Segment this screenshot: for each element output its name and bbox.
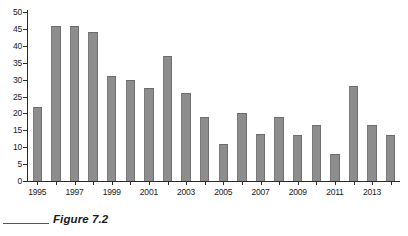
bar xyxy=(51,26,60,181)
bar xyxy=(70,26,79,181)
x-axis-tick-label: 2013 xyxy=(363,187,381,197)
bar xyxy=(256,134,265,181)
x-axis-tick-label: 2011 xyxy=(326,187,343,197)
y-axis-tick-label: 50 xyxy=(0,8,22,16)
bar xyxy=(200,117,209,181)
y-axis-tick-label: 30 xyxy=(0,76,22,84)
y-axis-tick-mark xyxy=(23,12,27,13)
y-axis-tick-label: 10 xyxy=(0,143,22,151)
figure-caption-row: Figure 7.2 xyxy=(0,207,408,231)
plot-region xyxy=(28,12,400,181)
x-axis-tick-labels: 1995199719992001200320052007200920112013 xyxy=(28,187,400,201)
bar xyxy=(312,125,321,181)
bar xyxy=(367,125,376,181)
figure-caption-label: Figure 7.2 xyxy=(53,213,108,225)
bar xyxy=(33,107,42,181)
y-axis-tick-mark xyxy=(23,147,27,148)
x-axis-tick-mark xyxy=(279,182,280,185)
y-axis-tick-mark xyxy=(23,130,27,131)
y-axis-tick-mark xyxy=(23,113,27,114)
y-axis-tick-mark xyxy=(23,181,27,182)
x-axis-tick-mark xyxy=(37,182,38,185)
y-axis-tick-label: 45 xyxy=(0,25,22,33)
y-axis-tick-label: 0 xyxy=(0,177,22,185)
y-axis-tick-label: 35 xyxy=(0,59,22,67)
bar xyxy=(330,154,339,181)
y-axis-tick-mark xyxy=(23,97,27,98)
x-axis-tick-mark xyxy=(316,182,317,185)
bar xyxy=(274,117,283,181)
y-axis-tick-label: 15 xyxy=(0,126,22,134)
x-axis-tick-mark xyxy=(130,182,131,185)
x-axis-tick-mark xyxy=(391,182,392,185)
x-axis-tick-mark xyxy=(56,182,57,185)
y-axis-tick-label: 40 xyxy=(0,42,22,50)
x-axis-tick-label: 2001 xyxy=(140,187,158,197)
x-axis-tick-mark xyxy=(186,182,187,185)
x-axis-tick-mark xyxy=(354,182,355,185)
x-axis-tick-mark xyxy=(93,182,94,185)
y-axis-tick-mark xyxy=(23,80,27,81)
bar xyxy=(237,113,246,181)
y-axis-tick-mark xyxy=(23,46,27,47)
figure-container: 05101520253035404550 1995199719992001200… xyxy=(0,0,408,236)
y-axis-tick-mark xyxy=(23,29,27,30)
x-axis-line xyxy=(27,181,400,182)
x-axis-tick-mark xyxy=(149,182,150,185)
x-axis-tick-label: 1995 xyxy=(28,187,46,197)
bar xyxy=(126,80,135,181)
x-axis-tick-label: 2005 xyxy=(214,187,232,197)
x-axis-tick-mark xyxy=(112,182,113,185)
x-axis-tick-mark xyxy=(298,182,299,185)
bar xyxy=(144,88,153,181)
x-axis-tick-mark xyxy=(168,182,169,185)
x-axis-tick-label: 1997 xyxy=(65,187,83,197)
bar xyxy=(107,76,116,181)
x-axis-tick-mark xyxy=(335,182,336,185)
bar xyxy=(181,93,190,181)
y-axis-tick-mark xyxy=(23,63,27,64)
caption-rule xyxy=(3,223,49,224)
x-axis-tick-mark xyxy=(223,182,224,185)
x-axis-tick-mark xyxy=(205,182,206,185)
x-axis-tick-mark xyxy=(75,182,76,185)
x-axis-tick-mark xyxy=(242,182,243,185)
x-axis-tick-label: 2009 xyxy=(289,187,307,197)
x-axis-tick-label: 2007 xyxy=(251,187,269,197)
bar xyxy=(386,135,395,181)
y-axis-tick-label: 20 xyxy=(0,109,22,117)
x-axis-tick-mark xyxy=(261,182,262,185)
bar xyxy=(163,56,172,181)
bar xyxy=(219,144,228,181)
x-axis-tick-mark xyxy=(372,182,373,185)
y-axis-tick-mark xyxy=(23,164,27,165)
x-axis-tick-label: 1999 xyxy=(103,187,121,197)
x-axis-tick-label: 2003 xyxy=(177,187,195,197)
bar-chart: 05101520253035404550 1995199719992001200… xyxy=(0,0,408,200)
y-axis-tick-labels: 05101520253035404550 xyxy=(0,12,22,180)
bar xyxy=(293,135,302,181)
y-axis-tick-label: 25 xyxy=(0,93,22,101)
bar xyxy=(349,86,358,181)
y-axis-tick-label: 5 xyxy=(0,160,22,168)
bar xyxy=(88,32,97,181)
